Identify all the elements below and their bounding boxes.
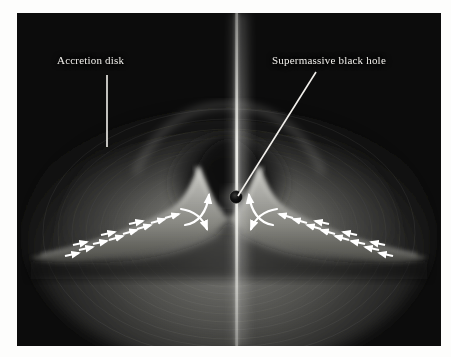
black-hole xyxy=(222,186,250,208)
astronomy-figure: Accretion disk Supermassive black hole xyxy=(0,0,451,357)
label-supermassive-black-hole: Supermassive black hole xyxy=(272,54,386,66)
label-accretion-disk: Accretion disk xyxy=(57,54,124,66)
